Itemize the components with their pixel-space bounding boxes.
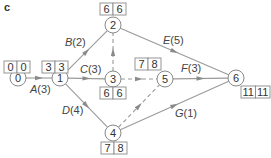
activity-label: F(3)	[181, 62, 201, 74]
node-number: 2	[110, 19, 116, 31]
time-box-0: 00	[4, 61, 30, 73]
edge-3-5	[121, 77, 157, 81]
event-node-2: 2	[105, 17, 121, 33]
node-number: 0	[15, 72, 21, 84]
earliest-time: 11	[243, 86, 254, 98]
time-box-2: 66	[100, 3, 126, 15]
event-node-6: 6	[228, 70, 244, 86]
arrowhead-icon	[196, 76, 204, 80]
arrowhead-icon	[35, 76, 43, 80]
time-box-4: 78	[101, 142, 127, 154]
activity-label: G(1)	[175, 107, 197, 119]
earliest-time: 7	[138, 58, 144, 70]
activity-duration: (3)	[37, 83, 50, 95]
activity-letter: A	[29, 83, 37, 95]
activity-duration: (1)	[184, 107, 197, 119]
activity-letter: C	[80, 63, 88, 75]
earliest-time: 0	[7, 61, 13, 73]
latest-time: 6	[116, 3, 122, 15]
edge-0-1: A(3)	[26, 76, 52, 95]
edge-3-2	[111, 33, 115, 71]
earliest-time: 3	[45, 61, 51, 73]
activity-letter: B	[65, 36, 72, 48]
edge-4-6: G(1)	[120, 81, 228, 129]
activity-label: C(3)	[80, 63, 101, 75]
arrowhead-icon	[170, 48, 178, 53]
node-number: 3	[110, 73, 116, 85]
activity-duration: (4)	[70, 104, 83, 116]
arrowhead-icon	[82, 76, 90, 80]
earliest-time: 7	[104, 142, 110, 154]
activity-label: D(4)	[62, 104, 83, 116]
latest-time: 0	[20, 61, 26, 73]
activity-duration: (3)	[88, 63, 101, 75]
latest-time: 3	[58, 61, 64, 73]
activity-label: A(3)	[29, 83, 51, 95]
node-number: 5	[162, 73, 168, 85]
latest-time: 11	[257, 86, 268, 98]
earliest-time: 6	[103, 87, 109, 99]
time-box-3: 66	[100, 87, 126, 99]
event-node-4: 4	[105, 125, 121, 141]
time-box-5: 78	[135, 58, 161, 70]
activity-duration: (2)	[72, 36, 85, 48]
node-number: 1	[57, 72, 63, 84]
edge-1-3: C(3)	[68, 63, 105, 81]
event-node-5: 5	[157, 71, 173, 87]
event-node-3: 3	[105, 71, 121, 87]
latest-time: 6	[116, 87, 122, 99]
node-number: 6	[233, 72, 239, 84]
time-box-6: 1111	[241, 86, 270, 98]
nodes-layer: 0123456	[10, 17, 244, 141]
activity-label: E(5)	[163, 34, 184, 46]
node-number: 4	[110, 127, 116, 139]
activity-duration: (5)	[170, 34, 183, 46]
time-box-1: 33	[42, 61, 68, 73]
earliest-time: 6	[103, 3, 109, 15]
activity-network-diagram: A(3)B(2)C(3)D(4)E(5)F(3)G(1) 0123456 003…	[0, 0, 271, 158]
activity-duration: (3)	[188, 62, 201, 74]
arrowhead-icon	[111, 48, 115, 56]
activity-letter: D	[62, 104, 70, 116]
latest-time: 8	[117, 142, 123, 154]
activity-label: B(2)	[65, 36, 86, 48]
latest-time: 8	[151, 58, 157, 70]
arrowhead-icon	[135, 77, 143, 81]
